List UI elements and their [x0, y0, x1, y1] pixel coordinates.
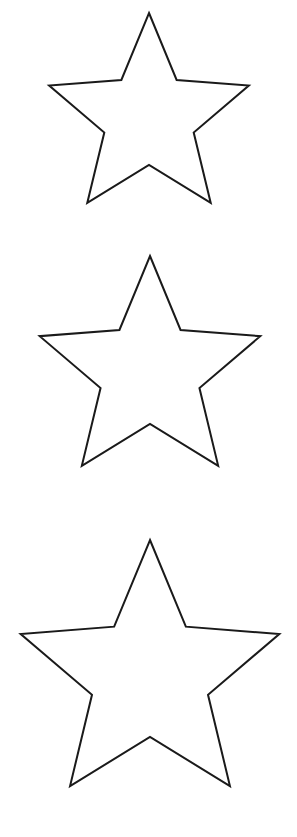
star-sheet-canvas [0, 0, 297, 837]
star-sheet-svg [0, 0, 297, 837]
